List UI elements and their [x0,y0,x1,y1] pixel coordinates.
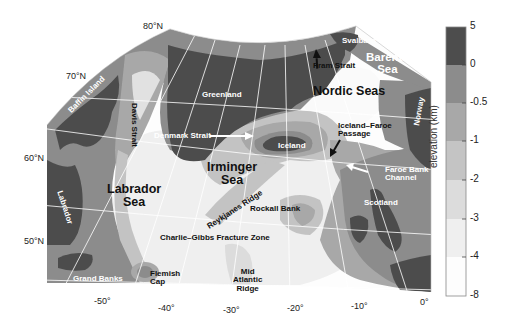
label-barents-sea: Barents Sea [366,51,409,75]
label-davis-strait: Davis Strait [130,103,138,147]
label-irminger-sea: Irminger Sea [207,161,257,187]
lat-label-70: 70°N [66,71,86,81]
colorbar-tick: -3 [470,212,479,223]
label-scotland: Scotland [364,199,398,207]
label-charlie-gibbs-fracture-zone: Charlie–Gibbs Fracture Zone [160,234,270,242]
label-flemish-cap: Flemish Cap [150,270,180,287]
lat-label-50: 50°N [24,236,44,246]
lon-label: -30° [223,305,240,315]
lon-label: -40° [158,303,175,313]
lat-label-60: 60°N [24,153,44,163]
label-nordic-seas: Nordic Seas [313,85,385,98]
label-fram-strait: Fram Strait [313,62,355,70]
label-labrador-sea: Labrador Sea [107,183,161,209]
lon-label: -20° [287,303,304,313]
lat-label-80: 80°N [143,21,163,31]
colorbar-tick: 5 [470,20,476,31]
colorbar-tick: -2 [470,173,479,184]
label-mid-atlantic-ridge: Mid Atlantic Ridge [233,268,262,293]
colorbar-tick: 0 [470,58,476,69]
label-denmark-strait: Denmark Strait [154,132,211,140]
label-faroe-bank-channel: Faroe Bank Channel [385,166,429,183]
label-iceland-faroe-passage: Iceland–Faroe Passage [338,122,392,139]
colorbar-tick: -1 [470,134,479,145]
label-svalbard: Svalbard [342,37,376,45]
label-greenland: Greenland [202,91,242,99]
colorbar-title: elevation (km) [428,105,439,168]
colorbar-tick: -4 [470,250,479,261]
lon-label: -50° [94,296,111,306]
lon-label: 0° [420,297,429,307]
colorbar [446,27,466,296]
label-iceland: Iceland [278,142,306,150]
colorbar-tick: -8 [470,289,479,300]
colorbar-tick: -0.5 [470,96,487,107]
label-rockall-bank: Rockall Bank [250,205,300,213]
label-grand-banks: Grand Banks [73,275,123,283]
lon-label: -10° [351,301,368,311]
